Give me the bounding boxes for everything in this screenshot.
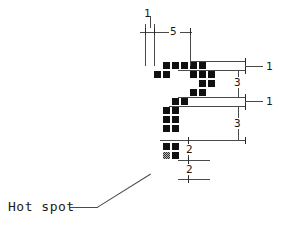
- pointer-line-r1: [245, 66, 263, 67]
- dimension-label-top-offset: 1: [144, 8, 151, 19]
- tick-top-1-left: [145, 28, 146, 35]
- pixel-cell: [171, 106, 180, 115]
- pixel-cell: [180, 61, 189, 70]
- pixel-cell: [189, 70, 198, 79]
- witness-line-r1-bottom: [178, 70, 245, 71]
- dimension-label-right-3b: 3: [233, 118, 242, 129]
- tick-top-1-right: [154, 28, 155, 35]
- tick-right-bottom: [245, 137, 246, 144]
- pixel-cell: [207, 79, 216, 88]
- dimension-label-lower-2b: 2: [185, 164, 194, 175]
- witness-line-low2a: [178, 160, 210, 161]
- witness-line-r3b-bottom: [160, 140, 245, 141]
- pixel-cell: [162, 61, 171, 70]
- dimension-label-top-span: 5: [170, 26, 177, 37]
- pixel-cell: [171, 124, 180, 133]
- pixel-cell: [207, 70, 216, 79]
- tick-right-top: [245, 58, 246, 65]
- pixel-cell: [198, 61, 207, 70]
- pixel-cell: [162, 124, 171, 133]
- pixel-cell: [162, 106, 171, 115]
- tick-right-mid-a: [245, 67, 246, 74]
- tick-right-mid-c: [245, 103, 246, 110]
- pixel-cell: [198, 79, 207, 88]
- pixel-cell: [180, 97, 189, 106]
- hot-spot-leader-diagonal: [97, 174, 151, 208]
- tick-top-5-right: [190, 28, 191, 35]
- dimension-label-right-1b: 1: [266, 96, 273, 107]
- pixel-cell: [162, 142, 171, 151]
- pixel-cell: [171, 142, 180, 151]
- dimension-label-lower-2a: 2: [185, 144, 194, 155]
- tick-low-top: [188, 137, 189, 144]
- tick-low-mid: [188, 157, 189, 164]
- pointer-line-r1b: [245, 101, 263, 102]
- pixel-cell: [171, 61, 180, 70]
- pixel-cell: [162, 70, 171, 79]
- hot-spot-cell: [162, 151, 171, 160]
- pixel-cell: [153, 70, 162, 79]
- pixel-cell: [171, 151, 180, 160]
- tick-right-mid-b: [245, 94, 246, 101]
- witness-line-low2b: [178, 179, 210, 180]
- tick-low-bottom: [188, 176, 189, 183]
- pixel-cell: [171, 115, 180, 124]
- diagram-canvas: 1 5 1 3 1 3 2 2 Hot spot: [0, 0, 282, 226]
- hot-spot-label: Hot spot: [8, 199, 75, 214]
- witness-line-r3a-bottom: [178, 97, 245, 98]
- pixel-cell: [171, 97, 180, 106]
- pixel-cell: [198, 70, 207, 79]
- witness-line-r1-top: [190, 61, 245, 62]
- pixel-cell: [189, 88, 198, 97]
- dimension-line-top-5a: [157, 32, 169, 33]
- dimension-label-right-1a: 1: [266, 61, 273, 72]
- pixel-cell: [162, 115, 171, 124]
- dimension-label-right-3a: 3: [233, 77, 242, 88]
- witness-line-r1b-bottom: [169, 106, 245, 107]
- pixel-cell: [198, 88, 207, 97]
